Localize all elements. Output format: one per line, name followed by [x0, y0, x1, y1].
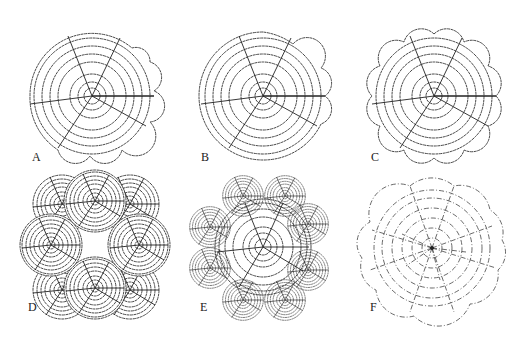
- panel-d-diagram: [20, 170, 170, 319]
- panel-e-diagram: [190, 176, 329, 321]
- panel-c-diagram: [367, 29, 501, 163]
- panel-label-f: F: [370, 300, 377, 315]
- panel-f-diagram: [357, 178, 506, 326]
- panel-label-c: C: [371, 150, 379, 165]
- panel-label-d: D: [28, 300, 37, 315]
- panel-a-diagram: [30, 33, 165, 163]
- panel-label-b: B: [201, 150, 209, 165]
- figure-canvas: [0, 0, 524, 340]
- panel-label-e: E: [200, 300, 207, 315]
- panel-b-diagram: [199, 32, 332, 160]
- panel-label-a: A: [32, 150, 41, 165]
